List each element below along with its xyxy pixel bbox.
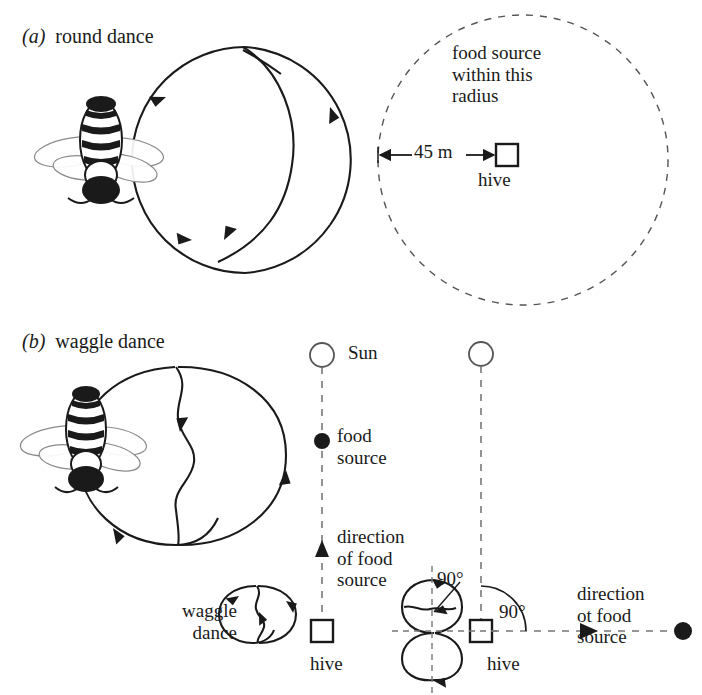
hive-marker-panel-b-left: [311, 620, 333, 642]
round-dance-arc-lower-right: [245, 225, 330, 273]
food-direction-arrow-right: [580, 623, 598, 639]
round-dance-arrowheads: [149, 92, 340, 246]
waggle-icon-left-lobe: [219, 586, 274, 643]
sun-marker-right: [469, 342, 493, 366]
food-source-marker-right: [674, 622, 692, 640]
bee-round-dance: [32, 96, 166, 204]
bee-dance-figure: (a) round dance (b) waggle dance food so…: [0, 0, 702, 695]
waggle-icon-r-run: [404, 606, 456, 609]
food-source-marker: [314, 433, 330, 449]
hive-marker-panel-a: [496, 144, 518, 166]
round-dance-arc-upper-left: [132, 47, 245, 160]
figure-artwork: [0, 0, 702, 695]
bee-head: [82, 176, 120, 204]
waggle-arrow-right: [279, 469, 292, 486]
bee2-head: [68, 466, 104, 492]
bee-waggle-dance: [18, 386, 149, 492]
waggle-icon-right-lobe: [258, 586, 296, 643]
distance-arrow-45m: [378, 147, 494, 163]
food-source-radius-circle: [378, 15, 668, 305]
waggle-icon-r-arrow-bottom: [433, 676, 447, 688]
waggle-icon-r-bottom-lobe: [402, 633, 435, 680]
round-dance-arrow-inner: [219, 223, 237, 243]
round-dance-arc-upper-right: [245, 47, 351, 225]
direction-arrow-up: [315, 540, 329, 557]
waggle-run-wavy-line: [175, 367, 194, 545]
round-dance-path: [132, 47, 351, 273]
round-dance-arrow-bottom: [175, 233, 192, 246]
sun-marker-left: [310, 343, 334, 367]
waggle-dance-icon-left: [219, 586, 296, 643]
